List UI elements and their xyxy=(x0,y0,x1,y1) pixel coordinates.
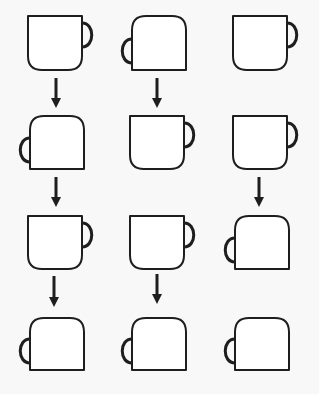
mug-handle xyxy=(287,123,297,147)
mug-r3-c3-upside-down-icon xyxy=(225,216,289,269)
arrow-down-icon xyxy=(51,78,61,108)
mug-body xyxy=(233,16,287,70)
mug-r1-c1-upright-icon xyxy=(28,16,92,70)
mug-body xyxy=(130,216,184,269)
mug-r2-c2-upright-icon xyxy=(130,116,194,169)
mug-r4-c2-upside-down-icon xyxy=(122,318,186,370)
arrow-down-icon xyxy=(51,177,61,207)
mug-body xyxy=(28,16,82,70)
mug-r1-c3-upright-icon xyxy=(233,16,297,70)
arrow-down-icon xyxy=(152,274,162,304)
mug-handle xyxy=(20,138,30,162)
mug-r3-c2-upright-icon xyxy=(130,216,194,269)
mug-handle xyxy=(184,123,194,147)
mug-handle xyxy=(225,238,235,262)
mug-body xyxy=(132,318,186,370)
mug-r4-c1-upside-down-icon xyxy=(20,318,84,370)
mug-body xyxy=(235,318,289,370)
arrow-down-icon xyxy=(254,177,264,207)
mug-body xyxy=(28,216,82,269)
mug-handle xyxy=(184,223,194,247)
mug-handle xyxy=(122,39,132,63)
mug-handle xyxy=(225,339,235,363)
diagram-canvas xyxy=(0,0,319,394)
mug-body xyxy=(130,116,184,169)
mug-body xyxy=(235,216,289,269)
mug-body xyxy=(132,16,186,70)
mug-handle xyxy=(122,339,132,363)
mug-body xyxy=(30,116,84,169)
arrow-down-icon xyxy=(49,276,59,307)
mug-body xyxy=(233,116,287,169)
mug-r2-c1-upside-down-icon xyxy=(20,116,84,169)
mug-handle xyxy=(82,223,92,247)
mug-body xyxy=(30,318,84,370)
arrow-down-icon xyxy=(152,78,162,108)
mug-r2-c3-upright-icon xyxy=(233,116,297,169)
mug-handle xyxy=(20,339,30,363)
mug-r3-c1-upright-icon xyxy=(28,216,92,269)
mug-handle xyxy=(287,23,297,47)
mug-r1-c2-upside-down-icon xyxy=(122,16,186,70)
mug-flip-diagram xyxy=(0,0,319,394)
mug-handle xyxy=(82,23,92,47)
mug-r4-c3-upside-down-icon xyxy=(225,318,289,370)
